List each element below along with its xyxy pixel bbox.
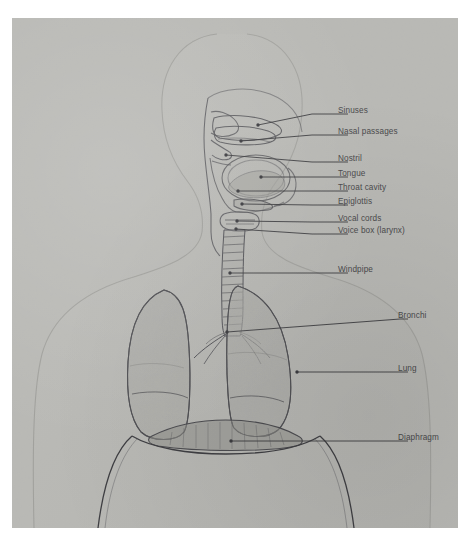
- label-text-throat-cavity: Throat cavity: [338, 184, 386, 192]
- label-text-nostril: Nostril: [338, 155, 362, 163]
- label-text-lung: Lung: [398, 365, 417, 373]
- label-text-tongue: Tongue: [338, 170, 365, 178]
- label-text-nasal-passages: Nasal passages: [338, 128, 398, 136]
- illustration-canvas: Sinuses Nasal passages Nostril Tongue Th…: [12, 18, 458, 528]
- label-text-epiglottis: Epiglottis: [338, 198, 372, 206]
- label-text-vocal-cords: Vocal cords: [338, 215, 381, 223]
- label-text-voice-box: Voice box (larynx): [338, 227, 405, 235]
- label-text-diaphragm: Diaphragm: [398, 434, 439, 442]
- label-text-windpipe: Windpipe: [338, 266, 373, 274]
- label-text-bronchi: Bronchi: [398, 312, 426, 320]
- label-text-sinuses: Sinuses: [338, 107, 368, 115]
- figure-plate: Sinuses Nasal passages Nostril Tongue Th…: [0, 0, 475, 548]
- respiratory-system-illustration: [12, 18, 458, 528]
